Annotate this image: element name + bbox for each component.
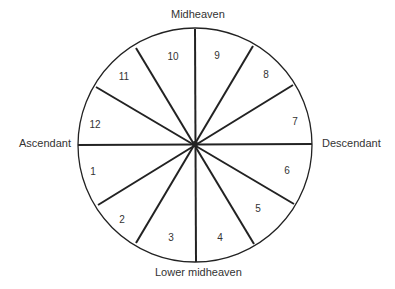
house-11: 11 <box>119 71 129 82</box>
house-10: 10 <box>167 51 178 62</box>
house-1: 1 <box>90 166 96 177</box>
house-5: 5 <box>255 203 261 214</box>
descendant-label: Descendant <box>322 137 381 149</box>
house-7: 7 <box>292 116 298 127</box>
lower-midheaven-label: Lower midheaven <box>155 266 242 278</box>
center-point <box>192 141 198 147</box>
house-4: 4 <box>217 232 223 243</box>
house-6: 6 <box>284 165 290 176</box>
house-12: 12 <box>89 119 100 130</box>
house-3: 3 <box>168 232 174 243</box>
house-2: 2 <box>119 214 125 225</box>
midheaven-label: Midheaven <box>171 8 225 20</box>
house-8: 8 <box>263 69 269 80</box>
house-9: 9 <box>214 50 220 61</box>
ascendant-label: Ascendant <box>19 137 71 149</box>
